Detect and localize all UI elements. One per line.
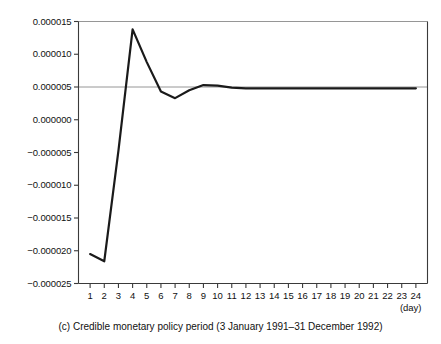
y-axis-ticks bbox=[74, 22, 79, 284]
y-tick-label: −0.000005 bbox=[27, 148, 71, 158]
figure-caption: (c) Credible monetary policy period (3 J… bbox=[0, 321, 441, 333]
data-series bbox=[90, 29, 416, 261]
chart-figure: 0.0000150.0000100.0000050.000000−0.00000… bbox=[0, 0, 441, 344]
y-tick-label: −0.000020 bbox=[27, 246, 71, 256]
y-tick-label: 0.000015 bbox=[33, 17, 72, 27]
y-tick-label: −0.000015 bbox=[27, 213, 71, 223]
y-tick-label: 0.000000 bbox=[33, 115, 72, 125]
x-axis-ticks bbox=[90, 284, 416, 289]
y-tick-label: 0.000010 bbox=[33, 49, 72, 59]
y-tick-label: 0.000005 bbox=[33, 82, 72, 92]
x-axis-unit-label: (day) bbox=[400, 303, 422, 313]
axis-lines bbox=[79, 22, 428, 284]
x-tick-label: 24 bbox=[406, 291, 426, 301]
y-tick-label: −0.000010 bbox=[27, 180, 71, 190]
y-tick-label: −0.000025 bbox=[27, 279, 71, 289]
gridlines bbox=[79, 22, 428, 88]
